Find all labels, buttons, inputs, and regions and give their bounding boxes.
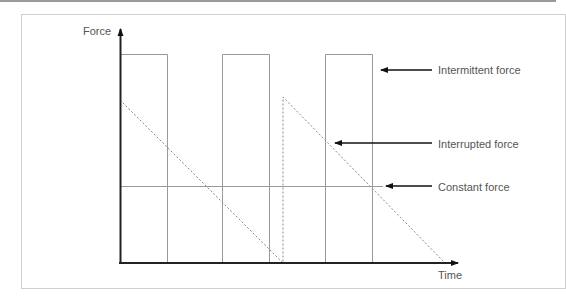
intermittent-force-label: Intermittent force	[438, 64, 521, 76]
interrupted-force-label: Interrupted force	[438, 138, 519, 150]
interrupted-force-line	[120, 97, 445, 263]
x-axis-label: Time	[438, 269, 462, 281]
pulse-1	[121, 55, 168, 264]
intermittent-force-pulses	[121, 55, 373, 264]
constant-force-label: Constant force	[438, 181, 510, 193]
pulse-2	[223, 55, 270, 264]
pulse-3	[326, 55, 373, 264]
y-axis-label: Force	[83, 25, 111, 37]
